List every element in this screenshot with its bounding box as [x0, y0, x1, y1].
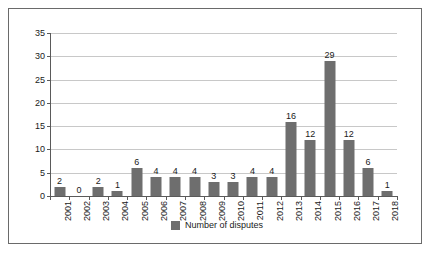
bar-2015[interactable]: [324, 61, 335, 196]
bar-value-label-2002: 0: [76, 185, 81, 195]
x-tick-mark: [339, 196, 340, 200]
bar-2008[interactable]: [189, 177, 200, 196]
bar-slot[interactable]: 6: [358, 33, 377, 196]
bar-value-label-2014: 12: [305, 129, 315, 139]
bar-value-label-2017: 6: [366, 157, 371, 167]
legend-swatch-number-of-disputes: [171, 221, 180, 230]
bar-value-label-2003: 2: [96, 176, 101, 186]
x-tick-mark: [378, 196, 379, 200]
x-tick-mark: [301, 196, 302, 200]
y-tick-mark-20: [47, 103, 51, 104]
x-tick-mark: [204, 196, 205, 200]
x-tick-mark: [320, 196, 321, 200]
bar-2006[interactable]: [151, 177, 162, 196]
bar-slot[interactable]: 3: [224, 33, 243, 196]
x-tick-mark: [281, 196, 282, 200]
bar-2003[interactable]: [93, 187, 104, 196]
bar-value-label-2007: 4: [173, 166, 178, 176]
bar-slot[interactable]: 2: [89, 33, 108, 196]
bar-2009[interactable]: [208, 182, 219, 196]
x-tick-mark: [243, 196, 244, 200]
bar-value-label-2012: 4: [269, 166, 274, 176]
x-tick-mark: [146, 196, 147, 200]
x-tick-mark: [89, 196, 90, 200]
x-tick-mark: [358, 196, 359, 200]
bar-2013[interactable]: [285, 122, 296, 197]
x-tick-mark: [127, 196, 128, 200]
bar-slot[interactable]: 4: [166, 33, 185, 196]
bar-value-label-2009: 3: [211, 171, 216, 181]
y-tick-label-25: 25: [5, 76, 45, 85]
bars-layer: 2021644433441612291261: [50, 33, 397, 196]
chart-legend: Number of disputes: [0, 220, 434, 230]
bar-2005[interactable]: [131, 168, 142, 196]
bar-value-label-2004: 1: [115, 180, 120, 190]
x-tick-mark: [108, 196, 109, 200]
bar-value-label-2006: 4: [153, 166, 158, 176]
y-tick-mark-15: [47, 126, 51, 127]
y-tick-label-20: 20: [5, 99, 45, 108]
bar-slot[interactable]: 1: [378, 33, 397, 196]
bar-slot[interactable]: 16: [281, 33, 300, 196]
y-tick-mark-30: [47, 56, 51, 57]
bar-value-label-2001: 2: [57, 176, 62, 186]
bar-slot[interactable]: 6: [127, 33, 146, 196]
y-axis-tick-labels: 05101520253035: [0, 33, 45, 196]
bar-2016[interactable]: [343, 140, 354, 196]
bar-slot[interactable]: 29: [320, 33, 339, 196]
y-tick-label-35: 35: [5, 29, 45, 38]
bar-2010[interactable]: [228, 182, 239, 196]
bar-chart-figure: 05101520253035 2021644433441612291261 20…: [0, 0, 434, 260]
bar-2011[interactable]: [247, 177, 258, 196]
y-tick-mark-35: [47, 33, 51, 34]
x-tick-mark: [185, 196, 186, 200]
bar-2012[interactable]: [266, 177, 277, 196]
legend-label-number-of-disputes: Number of disputes: [185, 220, 263, 230]
bar-value-label-2011: 4: [250, 166, 255, 176]
x-tick-mark: [397, 196, 398, 200]
bar-slot[interactable]: 4: [185, 33, 204, 196]
bar-value-label-2008: 4: [192, 166, 197, 176]
y-tick-label-10: 10: [5, 145, 45, 154]
y-tick-mark-10: [47, 149, 51, 150]
bar-slot[interactable]: 2: [50, 33, 69, 196]
bar-value-label-2016: 12: [344, 129, 354, 139]
x-tick-mark: [262, 196, 263, 200]
bar-value-label-2018: 1: [385, 180, 390, 190]
y-tick-label-30: 30: [5, 52, 45, 61]
y-tick-mark-0: [47, 196, 51, 197]
y-tick-label-0: 0: [5, 192, 45, 201]
bar-value-label-2013: 16: [286, 111, 296, 121]
bar-slot[interactable]: 3: [204, 33, 223, 196]
bar-slot[interactable]: 1: [108, 33, 127, 196]
bar-value-label-2010: 3: [231, 171, 236, 181]
bar-2007[interactable]: [170, 177, 181, 196]
bar-value-label-2005: 6: [134, 157, 139, 167]
bar-value-label-2015: 29: [324, 50, 334, 60]
y-tick-mark-5: [47, 173, 51, 174]
bar-slot[interactable]: 4: [243, 33, 262, 196]
x-tick-mark: [224, 196, 225, 200]
x-tick-mark: [166, 196, 167, 200]
bar-slot[interactable]: 12: [339, 33, 358, 196]
bar-2014[interactable]: [305, 140, 316, 196]
y-tick-label-15: 15: [5, 122, 45, 131]
bar-slot[interactable]: 4: [262, 33, 281, 196]
y-tick-mark-25: [47, 80, 51, 81]
x-tick-mark: [69, 196, 70, 200]
bar-2017[interactable]: [363, 168, 374, 196]
bar-slot[interactable]: 12: [301, 33, 320, 196]
y-tick-label-5: 5: [5, 169, 45, 178]
bar-slot[interactable]: 0: [69, 33, 88, 196]
bar-slot[interactable]: 4: [146, 33, 165, 196]
bar-2001[interactable]: [54, 187, 65, 196]
